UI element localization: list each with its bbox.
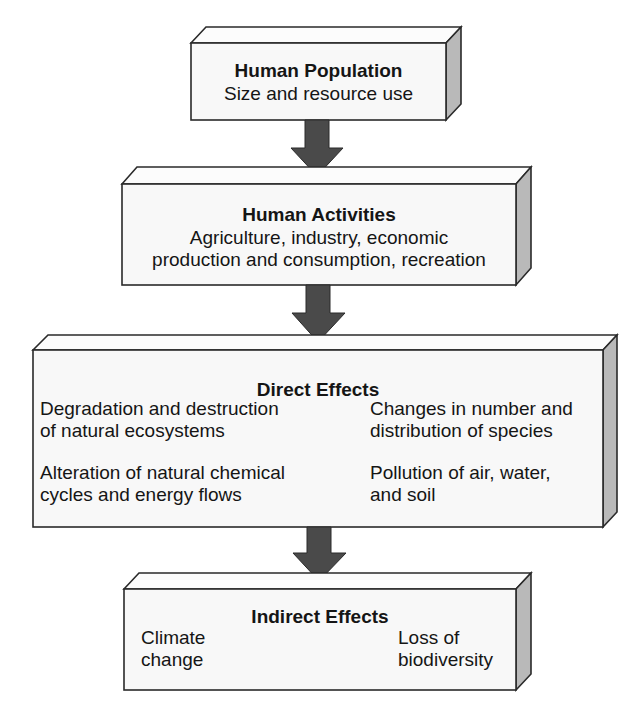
- box-side-face: [603, 335, 617, 527]
- box-line-human-activities-2: production and consumption, recreation: [122, 249, 516, 271]
- box-title-human-population: Human Population: [191, 60, 446, 82]
- box-side-face: [516, 167, 531, 285]
- box-title-human-activities: Human Activities: [122, 204, 516, 226]
- arrow-down-icon: [292, 285, 345, 342]
- direct-effect-item-species: Changes in number and distribution of sp…: [370, 398, 573, 442]
- indirect-effect-item-climate: Climate change: [141, 627, 205, 671]
- box-top-face: [33, 335, 617, 350]
- indirect-effect-item-biodiversity: Loss of biodiversity: [398, 627, 493, 671]
- box-top-face: [191, 27, 461, 43]
- box-side-face: [446, 27, 461, 120]
- box-top-face: [122, 167, 531, 184]
- box-title-indirect-effects: Indirect Effects: [124, 606, 516, 628]
- box-top-face: [124, 573, 531, 589]
- box-subtitle-human-population: Size and resource use: [191, 83, 446, 105]
- direct-effect-item-chemical-cycles: Alteration of natural chemical cycles an…: [40, 462, 285, 506]
- direct-effect-item-pollution: Pollution of air, water, and soil: [370, 462, 551, 506]
- box-side-face: [516, 573, 531, 690]
- direct-effect-item-degradation: Degradation and destruction of natural e…: [40, 398, 279, 442]
- box-line-human-activities-1: Agriculture, industry, economic: [122, 227, 516, 249]
